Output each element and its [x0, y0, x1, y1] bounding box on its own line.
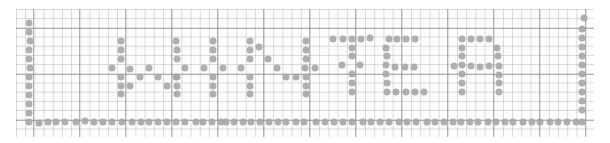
- dot: [450, 119, 457, 126]
- dot: [127, 66, 134, 73]
- dot: [485, 119, 492, 126]
- dot: [477, 36, 484, 43]
- dot: [91, 119, 98, 126]
- dot: [82, 118, 89, 125]
- dot: [393, 89, 400, 96]
- dot: [45, 119, 52, 126]
- dot: [238, 65, 245, 72]
- dot: [493, 119, 500, 126]
- dot: [413, 119, 420, 126]
- dot: [173, 38, 180, 45]
- dot: [412, 36, 419, 43]
- dot: [193, 119, 200, 126]
- dot: [579, 44, 586, 51]
- dot: [421, 89, 428, 96]
- dot: [174, 56, 181, 63]
- dot: [581, 15, 588, 22]
- dot: [174, 83, 181, 90]
- dot: [496, 63, 503, 70]
- dot: [210, 74, 217, 81]
- dot: [26, 74, 33, 81]
- dot: [256, 44, 263, 51]
- dot: [412, 89, 419, 96]
- dot: [384, 89, 391, 96]
- dot: [100, 119, 107, 126]
- dot: [247, 56, 254, 63]
- dot: [349, 119, 356, 126]
- dot: [182, 119, 189, 126]
- dot: [459, 71, 466, 78]
- dot: [164, 119, 171, 126]
- dot: [392, 64, 399, 71]
- dot: [383, 45, 390, 52]
- dot: [248, 119, 255, 126]
- dot: [367, 35, 374, 42]
- dot: [495, 53, 502, 60]
- dot: [475, 119, 482, 126]
- dot: [432, 119, 439, 126]
- dot: [339, 62, 346, 69]
- dot: [26, 101, 33, 108]
- dot: [349, 71, 356, 78]
- dot: [26, 29, 33, 36]
- dot: [118, 91, 125, 98]
- dot: [109, 119, 116, 126]
- dot: [458, 119, 465, 126]
- dot: [402, 64, 409, 71]
- dot: [210, 38, 217, 45]
- dot: [579, 71, 586, 78]
- dot: [322, 119, 329, 126]
- dot: [303, 74, 310, 81]
- dot: [138, 119, 145, 126]
- dot: [394, 36, 401, 43]
- dot: [358, 36, 365, 43]
- dot: [494, 45, 501, 52]
- dot: [360, 119, 367, 126]
- dot: [459, 80, 466, 87]
- dot: [118, 83, 125, 90]
- dot: [349, 89, 356, 96]
- dot: [210, 56, 217, 63]
- dot: [210, 47, 217, 54]
- dot: [579, 62, 586, 69]
- dot: [303, 83, 310, 90]
- dot: [118, 74, 125, 81]
- dot: [182, 65, 189, 72]
- dot: [293, 119, 300, 126]
- dot: [26, 119, 33, 126]
- dot: [331, 119, 338, 126]
- dot: [303, 56, 310, 63]
- dot: [424, 119, 431, 126]
- dot: [349, 36, 356, 43]
- dot: [174, 91, 181, 98]
- dot: [26, 56, 33, 63]
- dot: [247, 47, 254, 54]
- dot: [164, 83, 171, 90]
- dot: [201, 65, 208, 72]
- dot: [555, 119, 562, 126]
- dot: [441, 119, 448, 126]
- dot: [146, 119, 153, 126]
- dot: [579, 98, 586, 105]
- dot: [357, 62, 364, 69]
- dot: [27, 65, 34, 72]
- dot: [247, 38, 254, 45]
- dot: [247, 83, 254, 90]
- dot: [303, 91, 310, 98]
- dot: [247, 91, 254, 98]
- dot: [411, 64, 418, 71]
- dot: [349, 53, 356, 60]
- dot: [386, 36, 393, 43]
- dot: [579, 107, 586, 114]
- dot: [73, 119, 80, 126]
- dot: [579, 89, 586, 96]
- dot: [26, 92, 33, 99]
- dot: [200, 119, 207, 126]
- dot: [383, 62, 390, 69]
- dot: [26, 20, 33, 27]
- dot: [386, 119, 393, 126]
- dot: [220, 65, 227, 72]
- dot: [383, 71, 390, 78]
- dot: [27, 38, 34, 45]
- dot: [451, 63, 458, 70]
